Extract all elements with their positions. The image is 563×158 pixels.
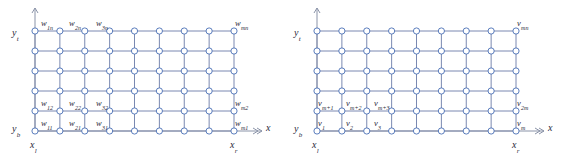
- node-label-subscript: 12: [47, 105, 53, 111]
- grid-node: [156, 48, 162, 54]
- node-label-subscript: 1n: [47, 25, 53, 31]
- node-label-base: w: [41, 18, 47, 28]
- grid-node: [206, 28, 212, 34]
- grid-node: [463, 48, 469, 54]
- grid-node: [413, 48, 419, 54]
- panel-w-indexed-grid: yt yb xl xr x w1nw2nw3nwmnw12w22w32wm2w1…: [0, 0, 281, 158]
- grid-node: [413, 68, 419, 74]
- grid-node: [364, 48, 370, 54]
- axis-label-y-top-left: yt: [12, 28, 18, 41]
- node-label-v-m+2: vm+2: [346, 99, 361, 110]
- node-label-v-2: v2: [346, 119, 353, 130]
- grid-node: [463, 28, 469, 34]
- node-label-subscript: m+2: [350, 105, 361, 111]
- node-label-subscript: 22: [75, 105, 81, 111]
- node-label-v-m: vm: [517, 119, 525, 130]
- axis-label-x-right-left: xr: [230, 140, 237, 153]
- grid-node: [82, 88, 88, 94]
- grid-node: [57, 128, 63, 134]
- grid-node: [181, 48, 187, 54]
- node-label-subscript: m+3: [378, 105, 389, 111]
- node-label-w-31: w31: [96, 119, 108, 130]
- grid-node: [206, 68, 212, 74]
- grid-node: [513, 88, 519, 94]
- node-label-w-22: w22: [69, 99, 81, 110]
- grid-node: [181, 68, 187, 74]
- grid-node: [488, 128, 494, 134]
- node-label-w-mn: wmn: [235, 19, 248, 30]
- grid-node: [413, 108, 419, 114]
- grid-node: [231, 88, 237, 94]
- grid-node: [339, 128, 345, 134]
- grid-node: [389, 68, 395, 74]
- grid-node: [364, 108, 370, 114]
- grid-node: [181, 108, 187, 114]
- grid-node: [231, 48, 237, 54]
- grid-node: [488, 68, 494, 74]
- grid-node: [413, 128, 419, 134]
- grid-node: [389, 128, 395, 134]
- node-label-subscript: 2m: [521, 105, 528, 111]
- axis-label-y-bottom-left: yb: [12, 124, 20, 137]
- grid-node: [438, 88, 444, 94]
- node-label-subscript: mn: [521, 25, 528, 31]
- node-label-w-1n: w1n: [41, 19, 53, 30]
- grid-node: [314, 68, 320, 74]
- node-label-base: w: [96, 118, 102, 128]
- node-label-w-12: w12: [41, 99, 53, 110]
- node-label-w-m1: wm1: [235, 119, 248, 130]
- node-label-subscript: m2: [241, 105, 248, 111]
- grid-node: [389, 48, 395, 54]
- grid-node: [181, 88, 187, 94]
- grid-node: [32, 128, 38, 134]
- grid-node: [463, 68, 469, 74]
- grid-node: [488, 28, 494, 34]
- node-label-subscript: mn: [241, 25, 248, 31]
- node-label-v-1: v1: [318, 119, 325, 130]
- node-label-subscript: 21: [75, 125, 81, 131]
- node-label-w-3n: w3n: [96, 19, 108, 30]
- node-label-base: w: [96, 98, 102, 108]
- node-label-subscript: 11: [47, 125, 53, 131]
- grid-node: [438, 28, 444, 34]
- node-label-w-21: w21: [69, 119, 81, 130]
- node-label-subscript: 2: [350, 125, 353, 131]
- node-label-base: w: [235, 98, 241, 108]
- grid-node: [131, 88, 137, 94]
- grid-node: [389, 88, 395, 94]
- node-label-w-2n: w2n: [69, 19, 81, 30]
- grid-node: [57, 28, 63, 34]
- two-panel-grid-figure: yt yb xl xr x w1nw2nw3nwmnw12w22w32wm2w1…: [0, 0, 563, 158]
- grid-node: [463, 108, 469, 114]
- grid-node: [206, 108, 212, 114]
- grid-node: [82, 28, 88, 34]
- node-label-v-3: v3: [374, 119, 381, 130]
- grid-node: [314, 48, 320, 54]
- axis-arrow-label-x-right: x: [548, 123, 552, 133]
- grid-node: [57, 48, 63, 54]
- axis-label-x-left-right: xl: [312, 140, 318, 153]
- node-label-subscript: 31: [102, 125, 108, 131]
- grid-node: [314, 28, 320, 34]
- grid-node: [488, 48, 494, 54]
- node-label-v-2m: v2m: [517, 99, 528, 110]
- grid-node: [339, 28, 345, 34]
- grid-node: [364, 128, 370, 134]
- node-label-base: w: [235, 118, 241, 128]
- grid-node: [488, 108, 494, 114]
- grid-node: [181, 128, 187, 134]
- grid-node: [488, 88, 494, 94]
- node-label-v-mn: vmn: [517, 19, 528, 30]
- grid-node: [107, 68, 113, 74]
- grid-node: [32, 48, 38, 54]
- grid-node: [156, 28, 162, 34]
- grid-node: [438, 48, 444, 54]
- grid-node: [32, 68, 38, 74]
- grid-node: [82, 128, 88, 134]
- grid-lines: [317, 31, 516, 131]
- grid-node: [181, 28, 187, 34]
- grid-node: [131, 48, 137, 54]
- node-label-v-m+1: vm+1: [318, 99, 333, 110]
- node-label-subscript: 32: [102, 105, 108, 111]
- axis-label-x-left-left: xl: [30, 140, 36, 153]
